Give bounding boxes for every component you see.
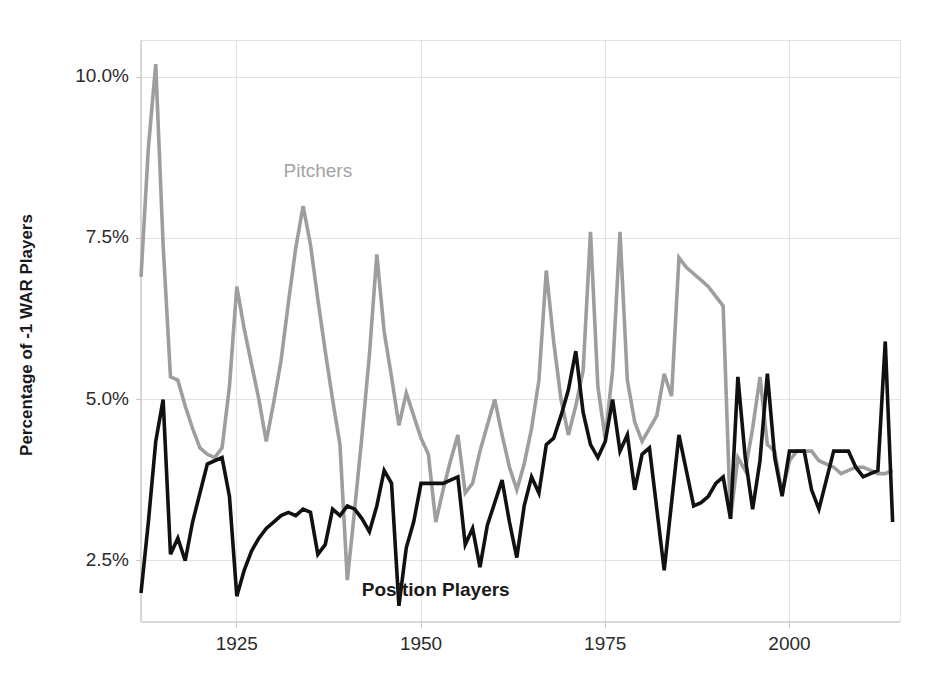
series-label-pitchers: Pitchers xyxy=(284,160,353,181)
y-tick-label: 7.5% xyxy=(86,226,129,247)
y-tick-label: 2.5% xyxy=(86,549,129,570)
series-annotations-group: PitchersPosition Players xyxy=(284,160,510,600)
line-chart: 10.0%7.5%5.0%2.5% 1925195019752000 Pitch… xyxy=(0,0,926,690)
x-tick-labels-group: 1925195019752000 xyxy=(216,633,811,654)
y-tick-label: 5.0% xyxy=(86,388,129,409)
x-tick-label: 2000 xyxy=(768,633,810,654)
chart-container: 10.0%7.5%5.0%2.5% 1925195019752000 Pitch… xyxy=(0,0,926,690)
x-tick-label: 1925 xyxy=(216,633,258,654)
series-line-pitchers xyxy=(141,64,893,580)
y-tick-labels-group: 10.0%7.5%5.0%2.5% xyxy=(75,65,129,570)
x-tick-label: 1950 xyxy=(400,633,442,654)
series-label-position-players: Position Players xyxy=(362,579,510,600)
x-tick-label: 1975 xyxy=(584,633,626,654)
series-group xyxy=(141,64,893,606)
y-axis-title: Percentage of -1 WAR Players xyxy=(17,214,36,456)
y-tick-label: 10.0% xyxy=(75,65,129,86)
